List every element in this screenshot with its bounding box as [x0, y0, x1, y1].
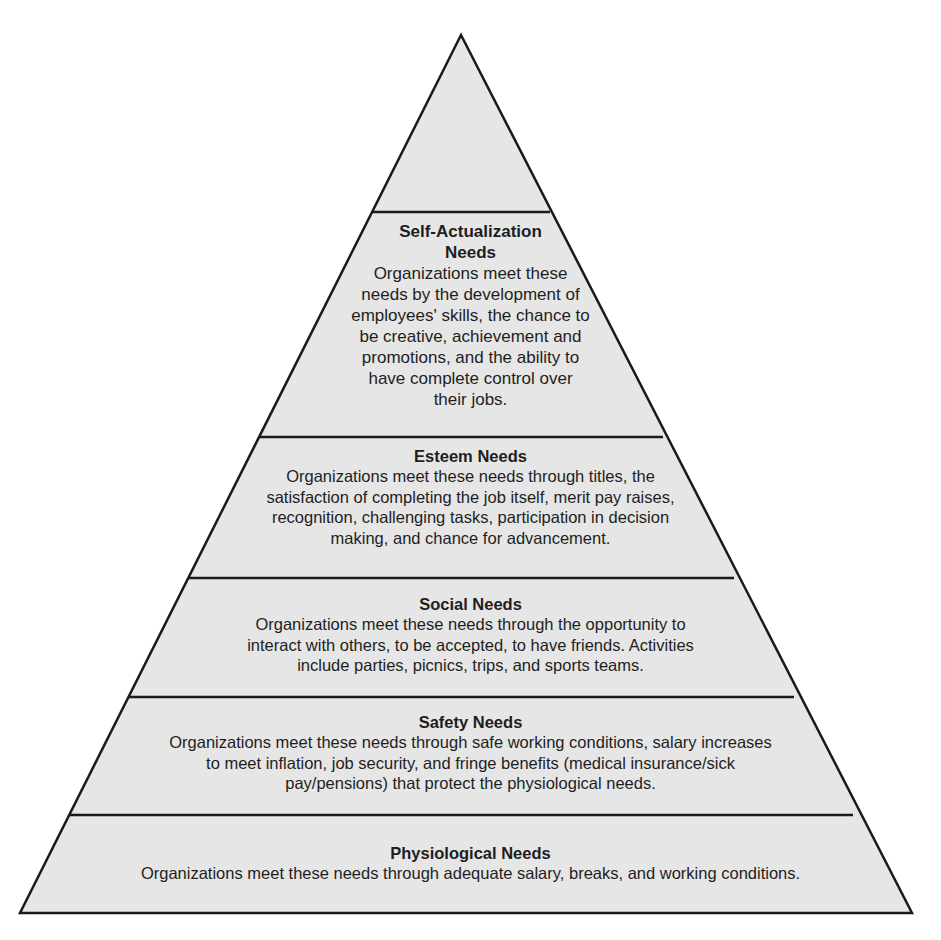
level-description-line: Organizations meet these needs through s… — [0, 732, 941, 753]
level-description-line: pay/pensions) that protect the physiolog… — [0, 773, 941, 794]
level-description-line: recognition, challenging tasks, particip… — [0, 507, 941, 528]
level-safety: Safety Needs Organizations meet these ne… — [0, 712, 941, 794]
level-self-actualization: Self-Actualization Needs Organizations m… — [0, 221, 941, 410]
level-description-line: interact with others, to be accepted, to… — [0, 635, 941, 656]
level-description-line: include parties, picnics, trips, and spo… — [0, 655, 941, 676]
level-description-line: Organizations meet these — [0, 263, 941, 284]
level-title: Social Needs — [0, 594, 941, 614]
level-description-line: needs by the development of — [0, 284, 941, 305]
level-description-line: to meet inflation, job security, and fri… — [0, 753, 941, 774]
level-title: Physiological Needs — [0, 843, 941, 863]
level-social: Social Needs Organizations meet these ne… — [0, 594, 941, 676]
level-description-line: have complete control over — [0, 368, 941, 389]
maslow-pyramid-diagram: Self-Actualization Needs Organizations m… — [0, 0, 941, 940]
level-title: Self-Actualization — [0, 221, 941, 242]
level-description-line: be creative, achievement and — [0, 326, 941, 347]
level-description-line: satisfaction of completing the job itsel… — [0, 487, 941, 508]
level-description-line: employees' skills, the chance to — [0, 305, 941, 326]
level-description-line: their jobs. — [0, 389, 941, 410]
level-title: Safety Needs — [0, 712, 941, 732]
level-description-line: Organizations meet these needs through t… — [0, 614, 941, 635]
level-description-line: making, and chance for advancement. — [0, 528, 941, 549]
level-description-line: Organizations meet these needs through t… — [0, 466, 941, 487]
level-esteem: Esteem Needs Organizations meet these ne… — [0, 446, 941, 548]
level-physiological: Physiological Needs Organizations meet t… — [0, 843, 941, 884]
level-title: Needs — [0, 242, 941, 263]
level-description-line: promotions, and the ability to — [0, 347, 941, 368]
level-description-line: Organizations meet these needs through a… — [0, 863, 941, 884]
level-title: Esteem Needs — [0, 446, 941, 466]
